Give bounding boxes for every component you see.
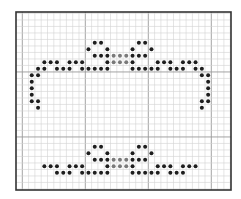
pattern-dot-dark — [80, 60, 84, 64]
pattern-dot-dark — [99, 67, 103, 71]
pattern-dot-gray — [118, 158, 122, 162]
pattern-dot-dark — [143, 145, 147, 149]
pattern-dot-dark — [49, 164, 53, 168]
pattern-dot-dark — [137, 158, 141, 162]
pattern-dot-dark — [137, 54, 141, 58]
pattern-dot-dark — [162, 164, 166, 168]
pattern-dot-dark — [86, 151, 90, 155]
pattern-dot-dark — [175, 67, 179, 71]
pattern-dot-dark — [61, 171, 65, 175]
pattern-dot-dark — [149, 67, 153, 71]
pattern-dot-dark — [68, 67, 72, 71]
pattern-dot-dark — [86, 67, 90, 71]
pattern-dot-dark — [131, 60, 135, 64]
pattern-dot-dark — [156, 171, 160, 175]
pattern-dot-dark — [99, 171, 103, 175]
pattern-dot-gray — [124, 164, 128, 168]
pattern-dot-dark — [181, 171, 185, 175]
pattern-dot-dark — [200, 67, 204, 71]
pattern-dot-dark — [86, 47, 90, 51]
pattern-dot-dark — [93, 54, 97, 58]
pattern-dot-dark — [149, 47, 153, 51]
pattern-dot-gray — [118, 60, 122, 64]
pattern-dot-dark — [194, 67, 198, 71]
pattern-dot-dark — [42, 164, 46, 168]
pattern-dot-dark — [99, 158, 103, 162]
pattern-dot-dark — [93, 41, 97, 45]
pattern-dot-dark — [80, 171, 84, 175]
pattern-dot-dark — [131, 67, 135, 71]
pattern-dot-dark — [55, 164, 59, 168]
pattern-dot-dark — [194, 60, 198, 64]
pattern-dot-dark — [131, 151, 135, 155]
pattern-dot-dark — [137, 41, 141, 45]
pattern-dot-dark — [143, 67, 147, 71]
pattern-dot-dark — [105, 171, 109, 175]
pattern-dot-dark — [105, 54, 109, 58]
pattern-dot-dark — [137, 67, 141, 71]
pattern-dot-dark — [206, 93, 210, 97]
pattern-dot-dark — [99, 145, 103, 149]
pattern-dot-dark — [143, 158, 147, 162]
grid-lines — [16, 12, 231, 190]
pattern-dot-dark — [156, 164, 160, 168]
pattern-dot-dark — [105, 67, 109, 71]
pattern-dot-dark — [36, 67, 40, 71]
pattern-dot-gray — [112, 60, 116, 64]
pattern-dot-gray — [118, 54, 122, 58]
pattern-dot-dark — [93, 67, 97, 71]
pattern-dot-dark — [61, 67, 65, 71]
pattern-dot-dark — [99, 41, 103, 45]
pattern-dot-dark — [55, 171, 59, 175]
pattern-dot-dark — [93, 158, 97, 162]
pattern-dot-dark — [206, 73, 210, 77]
pattern-dot-dark — [105, 60, 109, 64]
pattern-dot-dark — [74, 164, 78, 168]
pattern-dot-dark — [156, 67, 160, 71]
pattern-dot-gray — [112, 54, 116, 58]
pattern-dot-dark — [206, 99, 210, 103]
pattern-dot-dark — [105, 151, 109, 155]
pattern-dot-dark — [55, 60, 59, 64]
pattern-dot-dark — [93, 171, 97, 175]
pattern-dot-dark — [143, 41, 147, 45]
pattern-dot-dark — [49, 60, 53, 64]
pattern-dot-dark — [168, 171, 172, 175]
dot-grid-pattern — [0, 0, 241, 199]
pattern-dot-dark — [168, 164, 172, 168]
pattern-dot-dark — [99, 54, 103, 58]
pattern-dot-dark — [187, 60, 191, 64]
pattern-dot-dark — [105, 158, 109, 162]
pattern-dot-dark — [68, 171, 72, 175]
pattern-dot-dark — [30, 80, 34, 84]
pattern-dot-dark — [162, 60, 166, 64]
pattern-dot-dark — [200, 106, 204, 110]
pattern-dot-dark — [93, 145, 97, 149]
pattern-dot-dark — [36, 106, 40, 110]
pattern-dot-gray — [112, 164, 116, 168]
pattern-dot-dark — [200, 99, 204, 103]
pattern-dot-dark — [131, 158, 135, 162]
pattern-dot-dark — [30, 99, 34, 103]
pattern-dots — [30, 41, 210, 175]
pattern-dot-dark — [143, 54, 147, 58]
pattern-dot-dark — [74, 60, 78, 64]
pattern-dot-dark — [55, 67, 59, 71]
pattern-dot-dark — [68, 164, 72, 168]
pattern-dot-dark — [68, 60, 72, 64]
pattern-dot-dark — [131, 54, 135, 58]
pattern-dot-dark — [36, 73, 40, 77]
pattern-dot-dark — [206, 80, 210, 84]
pattern-dot-dark — [137, 145, 141, 149]
pattern-dot-dark — [194, 164, 198, 168]
pattern-dot-dark — [181, 67, 185, 71]
pattern-dot-dark — [80, 164, 84, 168]
pattern-dot-gray — [124, 158, 128, 162]
pattern-dot-dark — [30, 86, 34, 90]
pattern-dot-dark — [86, 171, 90, 175]
pattern-dot-dark — [149, 171, 153, 175]
pattern-dot-dark — [200, 73, 204, 77]
pattern-dot-dark — [42, 67, 46, 71]
pattern-dot-dark — [36, 99, 40, 103]
pattern-dot-dark — [42, 60, 46, 64]
